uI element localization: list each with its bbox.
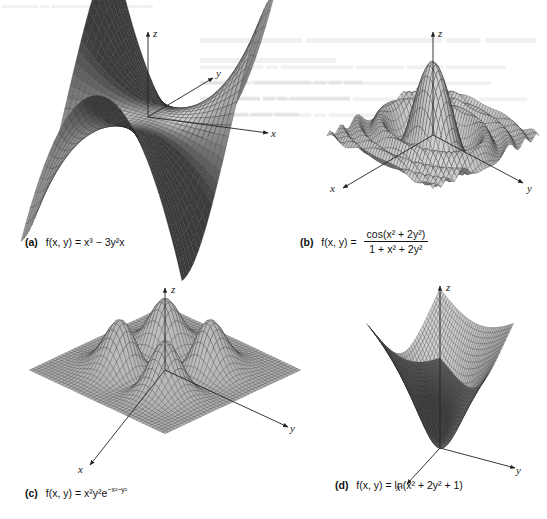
- caption-b: (b) f(x, y) = cos(x² + 2y²) 1 + x² + 2y²: [300, 228, 428, 255]
- y-axis-label: y: [215, 67, 221, 79]
- caption-b-tag: (b): [300, 236, 313, 248]
- y-axis-label: y: [526, 182, 532, 194]
- surface-plot-c: zxy: [0, 270, 290, 519]
- y-axis: [440, 448, 515, 468]
- caption-b-fraction: cos(x² + 2y²) 1 + x² + 2y²: [364, 228, 429, 255]
- x-axis-label: x: [270, 127, 276, 139]
- z-axis-label: z: [437, 27, 443, 39]
- surface-plot-a: zxy: [0, 20, 290, 250]
- caption-d: (d) f(x, y) = ln(x² + 2y² + 1): [335, 479, 463, 491]
- surface-plot-c-canvas: zxy: [0, 270, 290, 519]
- caption-b-numerator: cos(x² + 2y²): [364, 228, 429, 242]
- surface-plot-b-canvas: zxy: [290, 20, 547, 250]
- z-axis-label: z: [152, 27, 158, 39]
- x-axis-label: x: [329, 182, 335, 194]
- z-axis-label: z: [170, 283, 176, 295]
- caption-d-lhs: f(x, y) =: [356, 479, 391, 491]
- caption-a-lhs: f(x, y) =: [46, 236, 81, 248]
- surface-plot-b: zxy: [290, 20, 547, 250]
- bleed-through-header: ▬▬▬▬ ▬ ▬▬▬▬▬ ▬▬▬▬▬▬: [2, 0, 153, 10]
- caption-a-rhs: x³ − 3y²x: [84, 236, 125, 248]
- caption-c-rhs-base: x²y²e: [84, 487, 107, 499]
- caption-d-tag: (d): [335, 479, 348, 491]
- x-axis-label: x: [77, 463, 83, 475]
- z-axis-label: z: [445, 281, 451, 293]
- caption-d-rhs: ln(x² + 2y² + 1): [395, 479, 463, 491]
- caption-c-lhs: f(x, y) =: [46, 487, 81, 499]
- caption-a: (a) f(x, y) = x³ − 3y²x: [25, 236, 125, 248]
- caption-c: (c) f(x, y) = x²y²e−x²−y²: [25, 486, 127, 499]
- y-axis-label: y: [515, 464, 521, 476]
- caption-c-rhs-exponent: −x²−y²: [107, 486, 127, 493]
- caption-b-lhs: f(x, y) =: [321, 236, 356, 248]
- caption-c-tag: (c): [25, 487, 38, 499]
- caption-a-tag: (a): [25, 236, 38, 248]
- surface-plot-a-canvas: zxy: [0, 20, 290, 250]
- caption-b-denominator: 1 + x² + 2y²: [369, 242, 422, 255]
